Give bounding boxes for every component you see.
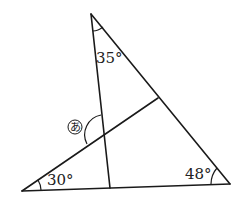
angle-arc-unknown	[85, 115, 101, 144]
angle-arc-bottom-right	[211, 168, 217, 184]
segment-left-to-right-side	[22, 98, 158, 191]
cevian-top-to-base	[91, 14, 110, 188]
unknown-angle-marker: あ	[68, 120, 82, 134]
geometry-diagram: 35° 30° 48° あ	[0, 0, 246, 202]
label-angle-top: 35°	[96, 49, 123, 67]
label-angle-unknown: あ	[70, 121, 81, 134]
angle-arc-top	[93, 27, 103, 31]
angle-arc-bottom-left	[38, 180, 41, 190]
label-angle-bottom-left: 30°	[47, 171, 74, 189]
side-right	[91, 14, 230, 184]
label-angle-bottom-right: 48°	[185, 165, 212, 183]
